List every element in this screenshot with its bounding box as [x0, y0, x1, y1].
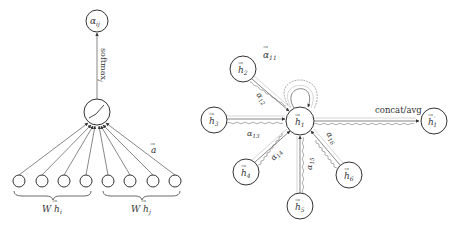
- input-node: [147, 175, 159, 187]
- svg-text:→: →: [295, 196, 300, 203]
- svg-text:→: →: [295, 111, 300, 118]
- svg-text:→: →: [241, 162, 246, 169]
- alpha-11-label: α11: [263, 50, 277, 61]
- multi-head-attention-panel: α11 α12 α13 α14 α15 α16 concat/avg h2 h3…: [201, 43, 447, 219]
- activation-node: [84, 99, 110, 125]
- input-node: [36, 175, 48, 187]
- input-node: [124, 175, 136, 187]
- input-node: [169, 175, 181, 187]
- alpha-13-label: α13: [247, 129, 260, 139]
- vector-arrow: →: [52, 197, 57, 204]
- input-node: [13, 175, 25, 187]
- input-node: [58, 175, 70, 187]
- input-node: [102, 175, 114, 187]
- svg-text:→: →: [428, 111, 433, 118]
- aggregation-label: concat/avg: [375, 105, 422, 115]
- softmax-label: softmaxj: [97, 48, 108, 82]
- svg-text:→: →: [344, 165, 349, 172]
- wh-j-label: W hj: [131, 204, 151, 216]
- svg-text:→: →: [238, 59, 243, 66]
- input-node: [80, 175, 92, 187]
- wh-i-label: W hi: [42, 204, 62, 215]
- svg-text:→: →: [263, 43, 268, 50]
- input-nodes: [13, 175, 181, 187]
- alpha-14-label: α14: [269, 147, 285, 163]
- alpha-16-label: α16: [324, 130, 340, 146]
- alpha-15-label: α15: [305, 157, 315, 170]
- svg-text:→: →: [209, 110, 214, 117]
- vector-arrow: →: [150, 140, 155, 147]
- vector-arrow: →: [141, 197, 146, 204]
- gat-diagram: W hi → W hj → a → softmaxj αij: [0, 0, 457, 230]
- attention-mechanism-panel: W hi → W hj → a → softmaxj αij: [13, 10, 181, 216]
- graph-nodes: h2 h3 h4 h5 h6 h1 h′1: [201, 56, 447, 219]
- alpha-12-label: α12: [254, 91, 270, 107]
